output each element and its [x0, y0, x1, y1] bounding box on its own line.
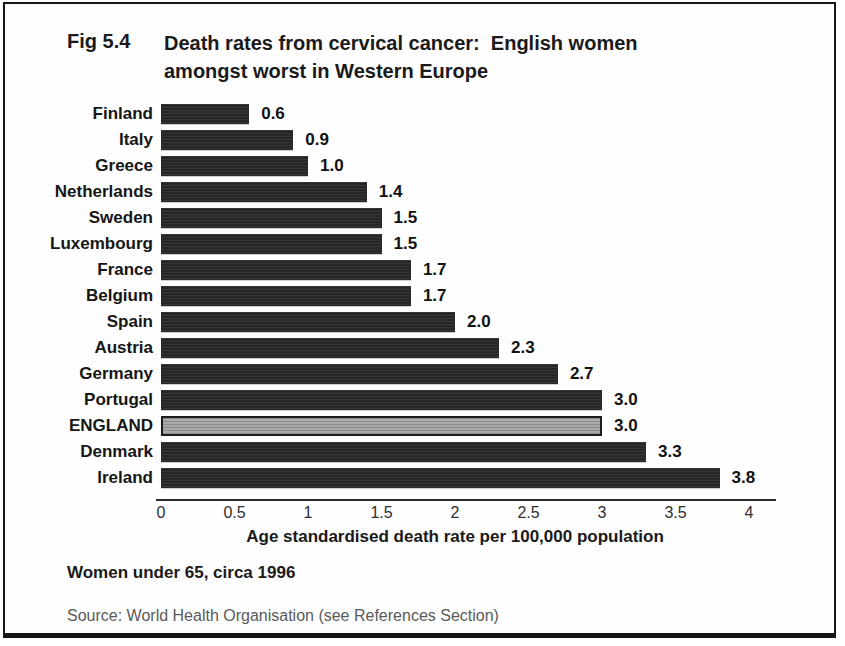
value-label: 3.0 — [614, 390, 638, 410]
x-axis-tick: 0.5 — [223, 504, 245, 522]
bar-sweden — [161, 208, 382, 228]
x-axis-tick: 1.5 — [370, 504, 392, 522]
bar-finland — [161, 104, 249, 124]
chart-row: Spain2.0 — [28, 309, 834, 335]
category-label: Ireland — [28, 468, 153, 488]
category-label: Belgium — [28, 286, 153, 306]
category-label: Austria — [28, 338, 153, 358]
chart-row: Finland0.6 — [28, 101, 834, 127]
value-label: 2.0 — [467, 312, 491, 332]
chart-row: Denmark3.3 — [28, 439, 834, 465]
bar-england — [161, 416, 602, 436]
x-axis-tick: 1 — [304, 504, 313, 522]
x-axis-tick: 2 — [451, 504, 460, 522]
value-label: 0.9 — [305, 130, 329, 150]
chart-row: Ireland3.8 — [28, 465, 834, 491]
value-label: 0.6 — [261, 104, 285, 124]
bar-greece — [161, 156, 308, 176]
value-label: 1.7 — [423, 286, 447, 306]
value-label: 1.4 — [379, 182, 403, 202]
x-axis-tick: 3 — [598, 504, 607, 522]
chart-row: Germany2.7 — [28, 361, 834, 387]
figure-title-line2: amongst worst in Western Europe — [164, 58, 638, 86]
category-label: Luxembourg — [28, 234, 153, 254]
x-axis-tick: 3.5 — [664, 504, 686, 522]
figure-title-line1: Death rates from cervical cancer: Englis… — [164, 30, 638, 58]
chart-row: France1.7 — [28, 257, 834, 283]
figure-header: Fig 5.4 Death rates from cervical cancer… — [67, 30, 834, 85]
category-label: Italy — [28, 130, 153, 150]
chart-row: Portugal3.0 — [28, 387, 834, 413]
bar-germany — [161, 364, 558, 384]
chart-row: Greece1.0 — [28, 153, 834, 179]
bar-ireland — [161, 468, 720, 488]
bar-spain — [161, 312, 455, 332]
bar-chart-rows: Finland0.6Italy0.9Greece1.0Netherlands1.… — [28, 101, 834, 491]
chart-row: Sweden1.5 — [28, 205, 834, 231]
source-note: Source: World Health Organisation (see R… — [67, 607, 834, 625]
category-label: Portugal — [28, 390, 153, 410]
chart-row: Austria2.3 — [28, 335, 834, 361]
x-axis-tick: 2.5 — [517, 504, 539, 522]
value-label: 1.0 — [320, 156, 344, 176]
figure-title: Death rates from cervical cancer: Englis… — [164, 30, 638, 85]
x-axis-title: Age standardised death rate per 100,000 … — [161, 527, 749, 547]
chart-row: Netherlands1.4 — [28, 179, 834, 205]
category-label: Greece — [28, 156, 153, 176]
chart-row: ENGLAND3.0 — [28, 413, 834, 439]
category-label: Finland — [28, 104, 153, 124]
chart-row: Belgium1.7 — [28, 283, 834, 309]
footnote: Women under 65, circa 1996 — [67, 563, 834, 583]
value-label: 3.3 — [658, 442, 682, 462]
chart-row: Luxembourg1.5 — [28, 231, 834, 257]
bar-luxembourg — [161, 234, 382, 254]
chart-row: Italy0.9 — [28, 127, 834, 153]
value-label: 1.5 — [394, 234, 418, 254]
category-label: Sweden — [28, 208, 153, 228]
bar-portugal — [161, 390, 602, 410]
x-axis-ticks: 00.511.522.533.54 — [161, 501, 834, 525]
category-label: Denmark — [28, 442, 153, 462]
value-label: 3.8 — [732, 468, 756, 488]
value-label: 2.3 — [511, 338, 535, 358]
figure-number: Fig 5.4 — [67, 30, 164, 85]
value-label: 2.7 — [570, 364, 594, 384]
bar-netherlands — [161, 182, 367, 202]
category-label: Netherlands — [28, 182, 153, 202]
value-label: 1.5 — [394, 208, 418, 228]
value-label: 3.0 — [614, 416, 638, 436]
x-axis-tick: 0 — [157, 504, 166, 522]
category-label: France — [28, 260, 153, 280]
bar-denmark — [161, 442, 646, 462]
figure-frame: Fig 5.4 Death rates from cervical cancer… — [3, 2, 836, 638]
bar-austria — [161, 338, 499, 358]
bar-chart: Finland0.6Italy0.9Greece1.0Netherlands1.… — [5, 101, 834, 547]
value-label: 1.7 — [423, 260, 447, 280]
bar-italy — [161, 130, 293, 150]
category-label: ENGLAND — [28, 416, 153, 436]
bar-france — [161, 260, 411, 280]
x-axis-tick: 4 — [745, 504, 754, 522]
category-label: Spain — [28, 312, 153, 332]
bar-belgium — [161, 286, 411, 306]
category-label: Germany — [28, 364, 153, 384]
